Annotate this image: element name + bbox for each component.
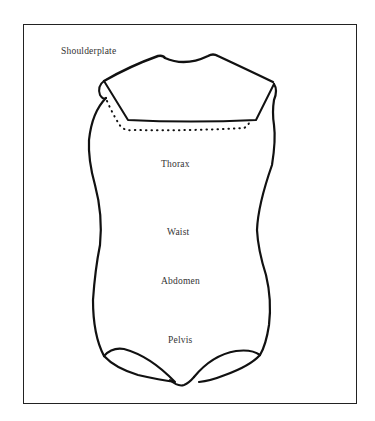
label-abdomen: Abdomen xyxy=(161,276,200,286)
left-leg-opening xyxy=(104,349,175,382)
label-thorax: Thorax xyxy=(161,159,190,169)
right-leg-opening xyxy=(194,351,260,383)
label-waist: Waist xyxy=(167,227,189,237)
body-right-side xyxy=(257,84,276,355)
shoulderplate-top-edge xyxy=(104,55,273,83)
dotted-seam-line xyxy=(107,101,250,130)
label-shoulderplate: Shoulderplate xyxy=(61,46,116,56)
label-pelvis: Pelvis xyxy=(168,335,192,345)
shoulderplate-bottom-edge xyxy=(104,81,274,122)
body-left-side xyxy=(89,98,106,356)
torso-outline-drawing xyxy=(0,0,375,421)
